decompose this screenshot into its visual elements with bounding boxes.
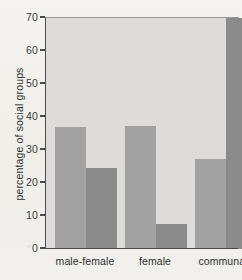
y-tick-30: 30 — [26, 142, 45, 156]
y-tick-10: 10 — [26, 208, 45, 222]
y-tick-0: 0 — [32, 241, 45, 255]
y-tick-label: 50 — [26, 76, 40, 90]
y-tick-label: 40 — [26, 109, 40, 123]
x-label-female: female — [118, 255, 192, 267]
bar-communal-series-2 — [226, 18, 242, 249]
y-axis-title: percentage of social groups — [13, 54, 25, 214]
y-tick-label: 60 — [26, 43, 40, 57]
bar-communal-series-1 — [195, 159, 226, 249]
bar-female-series-1 — [125, 126, 156, 249]
y-tick-70: 70 — [26, 10, 45, 24]
y-tick-40: 40 — [26, 109, 45, 123]
y-tick-label: 20 — [26, 175, 40, 189]
bar-group-container — [46, 18, 238, 249]
x-axis-line — [45, 248, 238, 249]
y-tick-60: 60 — [26, 43, 45, 57]
bar-male-female-series-1 — [55, 127, 86, 249]
y-tick-50: 50 — [26, 76, 45, 90]
y-tick-label: 10 — [26, 208, 40, 222]
plot-area — [45, 17, 239, 249]
y-tick-label: 30 — [26, 142, 40, 156]
y-tick-20: 20 — [26, 175, 45, 189]
x-label-male-female: male-female — [45, 255, 125, 267]
y-tick-label: 70 — [26, 10, 40, 24]
bar-female-series-2 — [156, 224, 187, 249]
x-axis-labels: male-female female communal — [45, 252, 238, 274]
bar-male-female-series-2 — [86, 168, 117, 249]
y-tick-label: 0 — [32, 241, 40, 255]
bar-chart-figure: 70 60 50 40 30 20 10 0 — [0, 0, 242, 280]
x-label-communal: communal — [184, 255, 242, 267]
